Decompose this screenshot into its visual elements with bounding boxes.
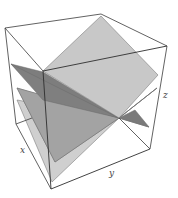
y-axis-label: y — [108, 168, 115, 178]
3d-planes-figure: z x y — [0, 0, 178, 198]
z-axis-label: z — [162, 90, 168, 100]
x-axis-label: x — [20, 145, 25, 155]
